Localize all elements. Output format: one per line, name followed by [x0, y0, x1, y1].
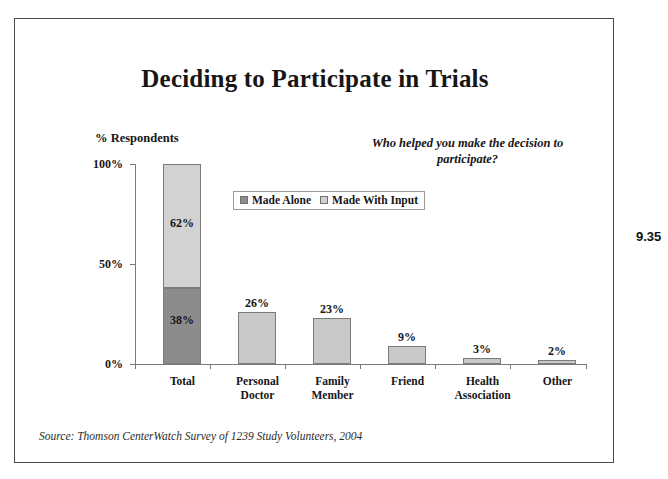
y-axis-title: % Respondents: [95, 131, 179, 146]
x-label-personal-doctor-line1: Personal: [220, 374, 295, 388]
x-label-personal-doctor-line2: Doctor: [220, 388, 295, 402]
y-tick-100: 100%: [130, 164, 135, 165]
figure-number: 9.35: [636, 229, 661, 244]
x-tick-5: [510, 364, 511, 369]
bar-value-personal-doctor: 26%: [225, 296, 289, 311]
bar-value-friend: 9%: [375, 330, 439, 345]
bar-segment-label-made-with-input: 62%: [164, 216, 200, 231]
y-tick-label-0: 0%: [105, 357, 123, 372]
x-tick-6: [586, 364, 587, 369]
y-tick-50: 50%: [130, 264, 135, 265]
x-tick-4: [435, 364, 436, 369]
x-label-family-member-line1: Family: [295, 374, 370, 388]
bar-other[interactable]: 2%: [538, 360, 576, 364]
bar-friend[interactable]: 9%: [388, 346, 426, 364]
bar-segment-made-with-input[interactable]: 62%: [163, 164, 201, 288]
x-axis-line: [135, 364, 587, 365]
x-label-personal-doctor: Personal Doctor: [220, 374, 295, 402]
plot-area: 0% 50% 100% 62% 38% 26%: [135, 164, 605, 364]
x-label-friend: Friend: [370, 374, 445, 388]
y-tick-label-100: 100%: [93, 157, 123, 172]
bar-segment-label-made-alone: 38%: [164, 313, 200, 328]
bar-value-family-member: 23%: [300, 302, 364, 317]
x-label-total: Total: [145, 374, 220, 388]
bar-family-member[interactable]: 23%: [313, 318, 351, 364]
bar-segment-made-alone[interactable]: 38%: [163, 288, 201, 364]
x-tick-2: [285, 364, 286, 369]
bar-value-other: 2%: [525, 344, 589, 359]
bar-value-health-association: 3%: [450, 342, 514, 357]
bar-health-association[interactable]: 3%: [463, 358, 501, 364]
chart-title: Deciding to Participate in Trials: [15, 65, 615, 93]
x-label-other-line1: Other: [520, 374, 595, 388]
x-label-health-association-line1: Health: [445, 374, 520, 388]
x-label-family-member: Family Member: [295, 374, 370, 402]
x-tick-1: [210, 364, 211, 369]
x-label-friend-line1: Friend: [370, 374, 445, 388]
y-axis-line: [135, 164, 136, 365]
x-label-total-line1: Total: [145, 374, 220, 388]
bar-total[interactable]: 62% 38%: [163, 164, 201, 364]
chart-subtitle-question: Who helped you make the decision to part…: [360, 135, 575, 167]
x-label-other: Other: [520, 374, 595, 388]
x-label-family-member-line2: Member: [295, 388, 370, 402]
bar-personal-doctor[interactable]: 26%: [238, 312, 276, 364]
y-tick-label-50: 50%: [99, 257, 123, 272]
x-tick-0: [135, 364, 136, 369]
source-note: Source: Thomson CenterWatch Survey of 12…: [39, 430, 362, 442]
x-tick-3: [360, 364, 361, 369]
x-label-health-association-line2: Association: [445, 388, 520, 402]
chart-frame: Deciding to Participate in Trials Who he…: [14, 18, 614, 463]
x-label-health-association: Health Association: [445, 374, 520, 402]
